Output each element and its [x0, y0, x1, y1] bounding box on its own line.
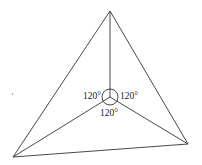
- triangle-side-left: [13, 11, 110, 157]
- fermat-point-diagram: 120° 120° 120°: [0, 0, 202, 165]
- segment-to-bottom-left: [13, 97, 110, 157]
- angle-label-right: 120°: [120, 91, 138, 101]
- segment-to-bottom-right: [110, 97, 188, 144]
- stray-dot: [12, 93, 13, 94]
- angle-label-bottom: 120°: [100, 108, 118, 118]
- angle-label-left: 120°: [83, 91, 101, 101]
- triangle-side-bottom: [13, 144, 188, 157]
- triangle-side-right: [110, 11, 188, 144]
